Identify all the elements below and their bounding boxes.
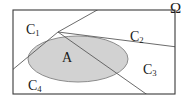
partition-label-c1: C1	[26, 23, 40, 38]
partition-label-c3: C3	[143, 63, 157, 78]
partition-label-c4: C4	[28, 79, 42, 94]
partition-label-c3-subscript: 3	[152, 68, 156, 78]
partition-label-c1-base: C	[26, 22, 35, 37]
partition-label-c2-base: C	[130, 29, 139, 44]
partition-label-c1-subscript: 1	[35, 28, 39, 38]
event-label-a: A	[62, 51, 72, 65]
event-ellipse-a	[28, 36, 128, 82]
universe-label-omega: Ω	[170, 1, 181, 16]
partition-label-c3-base: C	[143, 62, 152, 77]
partition-label-c2: C2	[130, 30, 144, 45]
partition-label-c4-subscript: 4	[37, 84, 41, 94]
probability-partition-figure: Ω A C1 C2 C3 C4	[0, 0, 190, 101]
partition-label-c2-subscript: 2	[139, 35, 143, 45]
partition-label-c4-base: C	[28, 78, 37, 93]
